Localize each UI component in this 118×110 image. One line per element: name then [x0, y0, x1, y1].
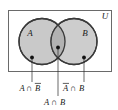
universe-label: U: [102, 11, 109, 21]
venn-diagram-figure: A B U A ∩ B A ∩ B A ∩ B: [0, 0, 118, 110]
venn-diagram-svg: A B U A ∩ B A ∩ B A ∩ B: [0, 0, 118, 110]
region-label-a-not-b-op: ∩: [26, 83, 32, 93]
region-label-a-not-b-left: A: [19, 83, 26, 93]
set-a-label: A: [26, 28, 33, 38]
region-label-a-not-b: A ∩ B: [19, 83, 42, 93]
region-label-a-and-b-left: A: [43, 97, 50, 107]
region-label-a-and-b-op: ∩: [51, 97, 57, 107]
region-label-not-a-b-op: ∩: [70, 83, 76, 93]
region-label-a-and-b: A ∩ B: [43, 97, 65, 107]
region-label-not-a-b-left: A: [62, 83, 69, 93]
region-label-a-not-b-right: B: [35, 83, 40, 93]
region-label-not-a-b: A ∩ B: [62, 83, 84, 93]
region-label-not-a-b-right: B: [79, 83, 84, 93]
set-b-label: B: [82, 28, 88, 38]
region-label-a-and-b-right: B: [60, 97, 65, 107]
